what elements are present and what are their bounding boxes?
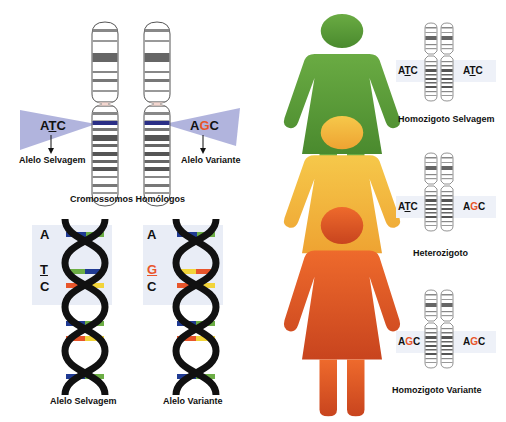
diagram-graphics [0,0,506,422]
genotype-3-right-seq: AGC [463,336,485,347]
genotype-chromosomes-1 [396,23,496,101]
variant-allele-label: Alelo Variante [181,155,241,165]
dna-variant-label: Alelo Variante [163,396,223,406]
figure-orange-woman [284,207,400,416]
base-g: G [199,118,209,133]
homologous-title: Cromossomos Homólogos [70,194,185,204]
wild-allele-label: Alelo Selvagem [19,155,86,165]
dna-helix-wild [32,219,112,395]
dna-wild-label: Alelo Selvagem [50,396,117,406]
dna-helix-variant [143,219,223,395]
genotype-3-label: Homozigoto Variante [392,385,482,395]
dna-wild-base-2: T [40,262,48,277]
genotype-3-left-seq: AGC [398,336,420,347]
chromosome-left [92,22,118,206]
genotype-1-right-seq: ATC [463,65,483,76]
genotype-1-left-seq: ATC [398,65,418,76]
genotype-2-right-seq: AGC [463,201,485,212]
base-c: C [210,118,219,133]
base-c: C [56,118,65,133]
genotype-1-label: Homozigoto Selvagem [398,114,495,124]
genotype-chromosomes-3 [396,290,496,368]
homologous-chromosomes [20,22,240,206]
genotype-2-left-seq: ATC [398,201,418,212]
variant-sequence: AGC [190,118,219,133]
dna-variant-base-3: C [147,279,156,294]
dna-wild-base-1: A [40,227,49,242]
chromosome-right [144,22,170,206]
genotype-chromosomes-2 [396,153,496,231]
dna-variant-base-1: A [147,227,156,242]
base-a: A [190,118,199,133]
wild-sequence: ATC [40,118,66,133]
dna-variant-base-2: G [147,262,157,277]
dna-wild-base-3: C [40,279,49,294]
genotype-2-label: Heterozigoto [413,248,468,258]
